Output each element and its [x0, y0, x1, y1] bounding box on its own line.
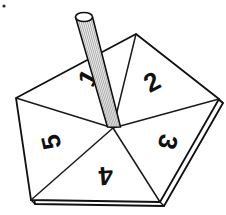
- speck-mark: [2, 4, 5, 7]
- speck-artifact: [2, 4, 5, 7]
- spinner-figure: 12345 Pentagonal spinner Line drawing of…: [0, 0, 226, 215]
- spindle-top-ellipse: [76, 13, 93, 22]
- spinner-illustration: 12345: [0, 0, 226, 215]
- sector-label-4: 4: [97, 161, 114, 192]
